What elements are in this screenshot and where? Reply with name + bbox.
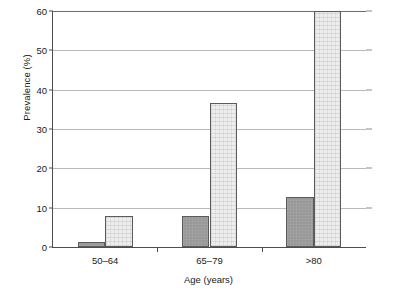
- right-tick-50: [366, 50, 372, 51]
- bar-series-2-light->80: [314, 11, 342, 247]
- right-tick-20: [366, 168, 372, 169]
- bar-series-2-light-50–64: [105, 216, 133, 247]
- y-tick-label-40: 40: [36, 84, 47, 95]
- right-tick-30: [366, 129, 372, 130]
- right-tick-40: [366, 89, 372, 90]
- x-tick-mark-1: [157, 247, 158, 252]
- y-tick-label-50: 50: [36, 45, 47, 56]
- bar-series-1-dark->80: [286, 197, 314, 247]
- y-tick-mark-40: [49, 89, 53, 90]
- y-tick-mark-0: [49, 247, 53, 248]
- y-tick-mark-60: [49, 11, 53, 12]
- bar-series-1-dark-65–79: [182, 216, 210, 247]
- x-tick-label-50–64: 50–64: [92, 255, 118, 266]
- y-tick-mark-20: [49, 168, 53, 169]
- x-tick-label-65–79: 65–79: [196, 255, 222, 266]
- bar-series-1-dark-50–64: [78, 242, 106, 247]
- y-tick-mark-30: [49, 129, 53, 130]
- y-axis-title: Prevalence (%): [21, 18, 32, 158]
- y-tick-label-10: 10: [36, 202, 47, 213]
- plot-area: 010203040506050–6465–79>80: [52, 11, 366, 248]
- x-tick-label->80: >80: [306, 255, 322, 266]
- right-tick-60: [366, 11, 372, 12]
- x-tick-mark-2: [262, 247, 263, 252]
- y-tick-label-0: 0: [42, 242, 47, 253]
- y-tick-mark-10: [49, 207, 53, 208]
- y-tick-label-30: 30: [36, 124, 47, 135]
- y-tick-mark-50: [49, 50, 53, 51]
- y-tick-label-60: 60: [36, 6, 47, 17]
- prevalence-by-age-bar-chart: Prevalence (%) 010203040506050–6465–79>8…: [0, 0, 394, 293]
- bar-series-2-light-65–79: [210, 103, 238, 247]
- x-axis-title: Age (years): [52, 274, 365, 285]
- y-tick-label-20: 20: [36, 163, 47, 174]
- right-tick-10: [366, 207, 372, 208]
